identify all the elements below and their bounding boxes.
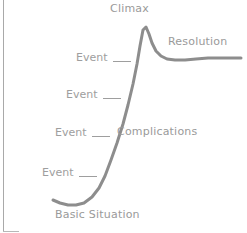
event-marker-4: Event [42, 167, 97, 179]
event-marker-3: Event [55, 127, 110, 139]
event-label: Event [76, 52, 108, 64]
event-leader-line [79, 176, 97, 177]
event-label: Event [66, 89, 98, 101]
event-marker-2: Event [66, 89, 121, 101]
event-leader-line [92, 136, 110, 137]
event-marker-1: Event [76, 52, 131, 64]
event-label: Event [42, 167, 74, 179]
label-climax: Climax [110, 3, 149, 15]
event-label: Event [55, 127, 87, 139]
label-resolution: Resolution [168, 36, 227, 48]
plot-diagram-canvas: Climax Resolution Complications Basic Si… [0, 0, 247, 233]
label-basic-situation: Basic Situation [55, 209, 140, 221]
event-leader-line [103, 98, 121, 99]
event-leader-line [113, 61, 131, 62]
label-complications: Complications [117, 126, 197, 138]
